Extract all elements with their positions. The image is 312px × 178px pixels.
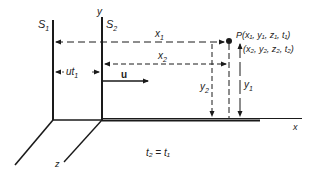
x1-label: x1 — [154, 28, 164, 41]
time-equation: t₂ = t₁ — [146, 147, 170, 158]
s1-z-axis — [15, 120, 53, 165]
s1-label: S1 — [38, 18, 49, 32]
point-p-coords-s2: (x₂, y₂, z₂, t₂) — [243, 44, 294, 54]
velocity-label: u — [121, 69, 127, 80]
y-axis-label: y — [96, 6, 103, 17]
x2-label: x2 — [157, 50, 167, 63]
galilean-transformation-diagram: S1 S2 y x z x1 x2 ut1 u y2 y1 P(x₁, y₁, … — [0, 0, 312, 178]
z-axis-label: z — [54, 159, 60, 169]
y1-label: y1 — [243, 79, 253, 92]
s2-z-axis — [64, 120, 102, 162]
x-axis-label: x — [292, 122, 298, 132]
s2-label: S2 — [106, 18, 117, 32]
point-p-coords-s1: P(x₁, y₁, z₁, t₁) — [236, 30, 290, 40]
y2-label: y2 — [199, 81, 209, 94]
point-p — [226, 38, 232, 44]
